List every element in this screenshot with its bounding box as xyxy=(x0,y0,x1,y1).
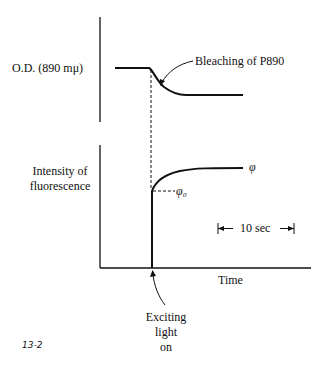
od-trace xyxy=(115,68,243,95)
phi-label: φ xyxy=(249,160,256,174)
od-axis-label: O.D. (890 mμ) xyxy=(12,61,83,75)
scale-bar-left-arrowhead xyxy=(218,226,224,231)
bleaching-arrow xyxy=(162,61,193,82)
exciting-light-line2: light xyxy=(138,325,194,339)
fluorescence-axis-label-line1: Intensity of xyxy=(24,164,96,178)
fluorescence-axis-label-line2: fluorescence xyxy=(24,179,96,193)
bleaching-label: Bleaching of P890 xyxy=(195,54,284,68)
exciting-light-line1: Exciting xyxy=(138,310,194,324)
fluorescence-trace xyxy=(152,168,243,268)
time-axis-label: Time xyxy=(218,273,243,287)
scale-bar-label: 10 sec xyxy=(240,221,270,235)
phi0-label: φ₀ xyxy=(176,184,187,198)
exciting-light-arrowhead xyxy=(150,270,156,277)
scale-bar-right-arrowhead xyxy=(288,226,294,231)
figure-number: 13-2 xyxy=(22,338,42,352)
exciting-light-arrow xyxy=(153,274,165,305)
exciting-light-line3: on xyxy=(138,340,194,354)
